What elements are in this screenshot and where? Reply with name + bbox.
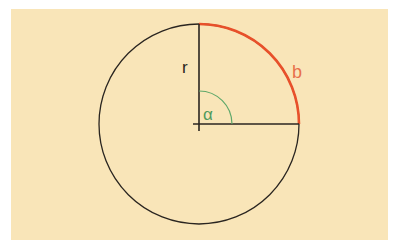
arc-label: b xyxy=(292,62,302,82)
arc-b xyxy=(199,24,299,124)
radius-label: r xyxy=(182,58,188,77)
angle-label: α xyxy=(203,105,213,124)
circle-sector-diagram: r b α xyxy=(0,0,401,251)
diagram-stage: r b α xyxy=(0,0,401,251)
